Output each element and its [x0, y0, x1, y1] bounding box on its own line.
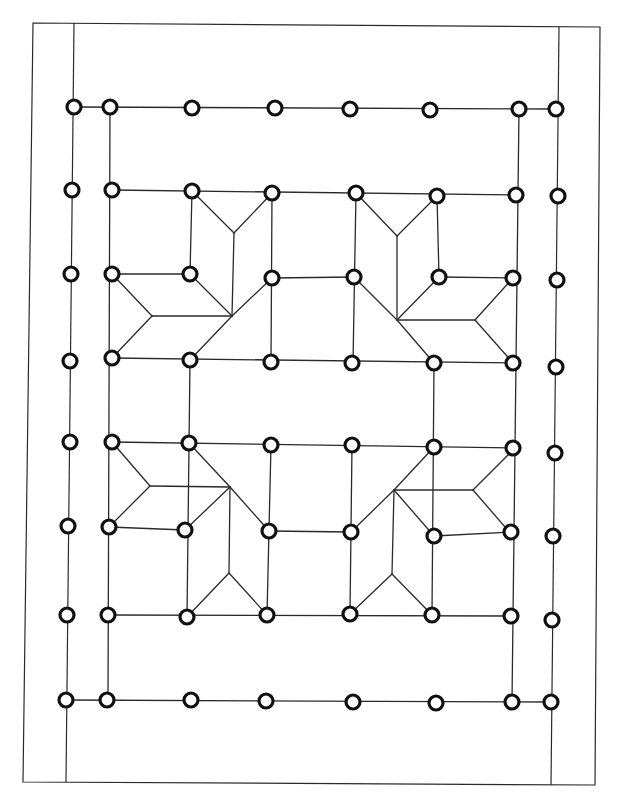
circle-node-icon: [347, 270, 361, 284]
pattern-edges: [66, 107, 556, 702]
circle-node-icon: [544, 695, 558, 709]
circle-node-icon: [430, 189, 444, 203]
pattern-edge: [432, 363, 434, 615]
circle-node-icon: [343, 607, 357, 621]
circle-node-icon: [344, 525, 358, 539]
quilt-pattern-diagram: [0, 0, 617, 799]
circle-node-icon: [63, 435, 77, 449]
circle-node-icon: [105, 435, 119, 449]
pattern-edge: [439, 277, 513, 278]
circle-node-icon: [427, 440, 441, 454]
pattern-edge: [189, 443, 230, 487]
circle-node-icon: [182, 436, 196, 450]
circle-node-icon: [105, 351, 119, 365]
circle-node-icon: [102, 520, 116, 534]
circle-node-icon: [427, 356, 441, 370]
circle-node-icon: [260, 608, 274, 622]
circle-node-icon: [101, 608, 115, 622]
pattern-edge: [229, 487, 230, 573]
pattern-edge: [190, 274, 232, 316]
circle-node-icon: [549, 102, 563, 116]
pattern-edge: [356, 193, 397, 236]
pattern-edge: [112, 274, 152, 316]
circle-node-icon: [64, 267, 78, 281]
pattern-edge: [112, 442, 150, 486]
border-line: [66, 23, 74, 782]
pattern-edge: [192, 191, 234, 233]
circle-node-icon: [65, 183, 79, 197]
diagram-canvas: [0, 0, 617, 799]
circle-node-icon: [425, 608, 439, 622]
circle-node-icon: [551, 189, 565, 203]
pattern-edge: [190, 191, 192, 274]
pattern-edge: [392, 490, 394, 574]
pattern-edge: [112, 358, 513, 363]
circle-node-icon: [262, 524, 276, 538]
pattern-edge: [112, 442, 513, 448]
pattern-edge: [187, 573, 229, 617]
circle-node-icon: [505, 695, 519, 709]
circle-node-icon: [343, 102, 357, 116]
circle-node-icon: [427, 529, 441, 543]
pattern-edge: [350, 574, 392, 614]
pattern-edge: [74, 107, 556, 109]
circle-node-icon: [185, 101, 199, 115]
circle-node-icon: [100, 693, 114, 707]
circle-node-icon: [550, 273, 564, 287]
pattern-edge: [187, 360, 190, 617]
circle-node-icon: [545, 613, 559, 627]
pattern-edge: [475, 320, 513, 363]
pattern-edge: [272, 277, 354, 278]
circle-node-icon: [178, 523, 192, 537]
circle-node-icon: [185, 184, 199, 198]
circle-node-icon: [183, 353, 197, 367]
circle-node-icon: [512, 102, 526, 116]
pattern-edge: [351, 490, 394, 532]
circle-node-icon: [264, 355, 278, 369]
grid-nodes: [59, 100, 565, 710]
circle-node-icon: [345, 356, 359, 370]
pattern-edge: [434, 532, 511, 536]
circle-node-icon: [265, 271, 279, 285]
pattern-edge: [150, 486, 230, 487]
circle-node-icon: [60, 608, 74, 622]
pattern-edge: [394, 490, 434, 536]
circle-node-icon: [180, 610, 194, 624]
pattern-edge: [354, 277, 397, 320]
circle-node-icon: [259, 694, 273, 708]
pattern-edge: [109, 527, 185, 530]
pattern-edge: [112, 190, 516, 195]
circle-node-icon: [506, 271, 520, 285]
pattern-edge: [185, 487, 230, 530]
circle-node-icon: [509, 188, 523, 202]
circle-node-icon: [432, 270, 446, 284]
border-lines: [66, 23, 559, 785]
circle-node-icon: [429, 696, 443, 710]
pattern-edge: [109, 486, 150, 527]
pattern-edge: [397, 277, 439, 320]
circle-node-icon: [59, 693, 73, 707]
circle-node-icon: [105, 183, 119, 197]
pattern-edge: [232, 233, 234, 316]
circle-node-icon: [506, 356, 520, 370]
circle-node-icon: [67, 100, 81, 114]
circle-node-icon: [345, 438, 359, 452]
border-line: [551, 27, 559, 785]
pattern-edge: [269, 531, 351, 532]
pattern-edge: [394, 447, 434, 490]
circle-node-icon: [61, 519, 75, 533]
circle-node-icon: [504, 609, 518, 623]
circle-node-icon: [183, 267, 197, 281]
circle-node-icon: [349, 186, 363, 200]
circle-node-icon: [268, 101, 282, 115]
circle-node-icon: [549, 360, 563, 374]
pattern-edge: [190, 316, 232, 360]
pattern-edge: [230, 487, 269, 531]
circle-node-icon: [105, 267, 119, 281]
circle-node-icon: [506, 441, 520, 455]
circle-node-icon: [63, 354, 77, 368]
pattern-edge: [473, 449, 514, 490]
pattern-edge: [66, 700, 551, 702]
pattern-edge: [437, 196, 439, 277]
pattern-edge: [112, 316, 152, 358]
